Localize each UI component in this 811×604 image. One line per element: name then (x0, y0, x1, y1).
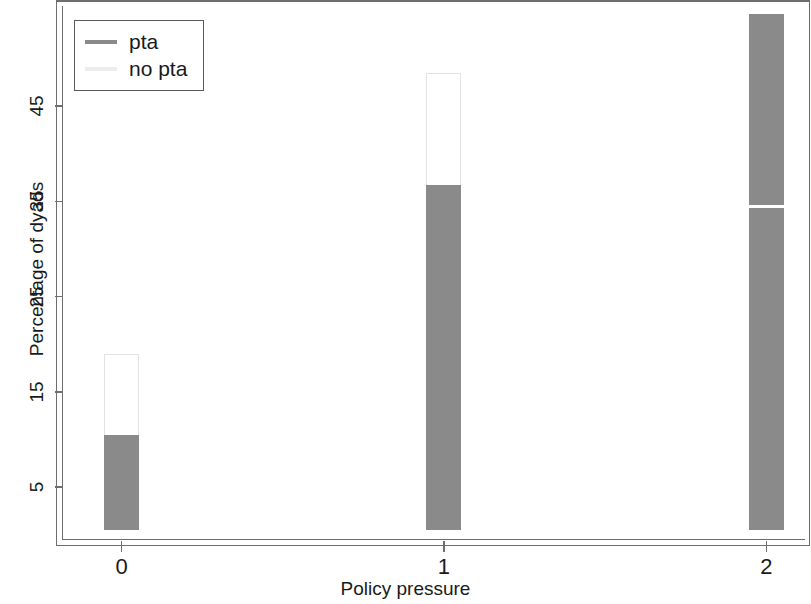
bar-segment-no-pta (426, 73, 461, 185)
legend-item-pta: pta (85, 28, 187, 55)
bar-segment-pta (104, 435, 139, 530)
legend-item-no-pta: no pta (85, 55, 187, 82)
y-axis-title: Percentage of dyads (26, 139, 48, 399)
x-axis-tick-label: 1 (414, 554, 474, 580)
x-axis-tick-label: 2 (736, 554, 796, 580)
y-axis-tick (55, 201, 63, 203)
y-axis-tick (55, 296, 63, 298)
legend-label-pta: pta (129, 31, 158, 52)
bar-stack (749, 14, 784, 530)
y-axis-tick-label: 45 (22, 91, 52, 121)
legend-label-no-pta: no pta (129, 58, 187, 79)
chart-legend: pta no pta (74, 20, 204, 91)
bar-segment-pta (426, 185, 461, 530)
x-axis-tick-label: 0 (92, 554, 152, 580)
y-axis-tick-label: 35 (22, 186, 52, 216)
x-axis-tick (443, 541, 445, 552)
y-axis-tick (55, 486, 63, 488)
y-axis-tick-label: 25 (22, 282, 52, 312)
y-axis-tick (55, 391, 63, 393)
legend-key-no-pta-icon (85, 67, 117, 71)
bar-segment-pta (749, 14, 784, 530)
bar-stack (426, 73, 461, 530)
x-axis-tick (121, 541, 123, 552)
bar-stack-seam (749, 205, 784, 208)
x-axis-title: Policy pressure (0, 578, 811, 600)
bar-segment-no-pta (104, 354, 139, 435)
y-axis-tick-label: 15 (22, 377, 52, 407)
bar-chart: Percentage of dyads 515253545 012 Policy… (0, 0, 811, 604)
y-axis-tick-label: 5 (22, 472, 52, 502)
x-axis-tick (766, 541, 768, 552)
legend-key-pta-icon (85, 40, 117, 44)
y-axis-tick (55, 105, 63, 107)
bar-stack (104, 354, 139, 530)
